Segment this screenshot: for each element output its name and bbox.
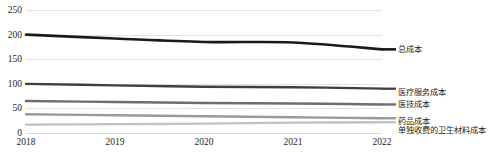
x-tick-2018: 2018 (1, 137, 51, 147)
x-tick-2019: 2019 (90, 137, 140, 147)
line-chart: 250 200 150 100 50 0 总成本 医疗服务成本 医技成本 药品成… (0, 0, 492, 158)
x-tick-2021: 2021 (268, 137, 318, 147)
x-tick-2022: 2022 (357, 137, 407, 147)
series-line-medical-tech-cost (26, 101, 382, 104)
series-label-total-cost: 总成本 (398, 45, 422, 54)
series-line-medical-service-cost (26, 84, 382, 89)
series-label-medical-service-cost: 医疗服务成本 (398, 88, 446, 97)
series-line-drug-cost (26, 114, 382, 118)
x-tick-2020: 2020 (179, 137, 229, 147)
series-line-total-cost (26, 35, 382, 50)
series-label-medical-tech-cost: 医技成本 (398, 100, 430, 109)
series-label-material-cost: 单独收费的卫生材料成本 (398, 126, 486, 135)
series-line-material-cost (26, 122, 382, 124)
